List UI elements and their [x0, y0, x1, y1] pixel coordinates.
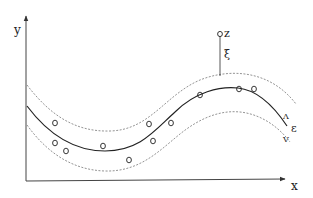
x-axis-label: x — [291, 179, 298, 193]
y-axis-label: y — [13, 23, 21, 37]
data-point — [127, 157, 132, 163]
epsilon-tube-diagram: y x z ξ Λ ε V — [0, 0, 313, 198]
data-point — [252, 86, 257, 92]
upper-marker: Λ — [282, 112, 289, 121]
data-point — [53, 140, 58, 146]
upper-bound-curve — [27, 73, 296, 131]
center-curve — [27, 88, 287, 151]
data-point — [53, 120, 58, 126]
data-point — [151, 138, 156, 144]
z-label: z — [224, 27, 230, 40]
lower-marker: V — [282, 135, 289, 144]
data-points — [53, 86, 257, 163]
data-point — [147, 121, 152, 127]
outlier-point — [218, 31, 223, 36]
data-point — [64, 148, 69, 154]
data-point — [101, 143, 106, 149]
xi-label: ξ — [224, 48, 230, 61]
x-axis — [26, 179, 285, 181]
data-point — [169, 120, 174, 126]
data-point — [237, 86, 242, 92]
epsilon-label: ε — [291, 122, 297, 135]
